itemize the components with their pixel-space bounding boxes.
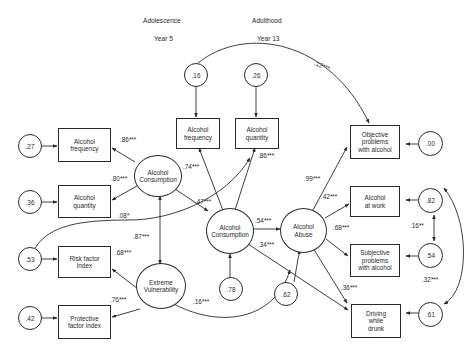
- box-label: Protective factor index: [68, 315, 101, 330]
- error-circle-abuse: .62: [274, 282, 298, 306]
- box-objective-problems: Objective problems with alcohol: [350, 125, 400, 159]
- coef-abuse-objective: .99***: [304, 175, 320, 182]
- latent-alcohol-consumption-adult: Alcohol Consumption: [206, 208, 254, 254]
- edge-abuse-driving: [313, 248, 347, 303]
- coef-work-subj-corr: .16**: [410, 222, 424, 229]
- edge-cons-freq: [112, 148, 135, 162]
- edge-work-driving-corr: [444, 188, 464, 304]
- latent-alcohol-abuse: Alcohol Abuse: [280, 208, 327, 253]
- box-alcohol-quantity-adult: Alcohol quantity: [235, 118, 279, 149]
- box-alcohol-frequency-adult: Alcohol frequency: [176, 118, 220, 149]
- box-alcohol-frequency-adol: Alcohol frequency: [58, 128, 111, 162]
- box-protective-factor-index: Protective factor index: [58, 305, 111, 339]
- coef-vuln-protective: .76***: [110, 296, 126, 303]
- box-label: Subjective problems with alcohol: [358, 249, 391, 272]
- edge-abuse-subjective: [326, 239, 348, 256]
- edge-adult-driving: [248, 244, 348, 310]
- coef-abuse-work: .42***: [321, 193, 337, 200]
- box-label: Driving while drunk: [366, 310, 386, 333]
- error-circle-risk: .53: [18, 247, 42, 271]
- coef-abuse-driving: .36***: [341, 284, 357, 291]
- edge-vuln-protective: [112, 309, 140, 317]
- header-year-13: Year 13: [257, 35, 280, 42]
- edge-adult-qty: [234, 148, 255, 213]
- coef-adult-driving: .34***: [258, 241, 274, 248]
- box-label: Alcohol quantity: [73, 194, 95, 209]
- coef-adult-qty: .86***: [258, 152, 274, 159]
- error-circle-freq-adult: .16: [184, 63, 208, 87]
- error-circle-driving: .61: [418, 302, 443, 327]
- coef-risk-adult-qty: .08*: [118, 212, 129, 219]
- latent-alcohol-consumption-adol: Alcohol Consumption: [134, 155, 182, 197]
- edge-cons-qty: [112, 186, 137, 200]
- coef-adult-freq: .74***: [183, 163, 199, 170]
- coef-work-driving-corr: .32***: [422, 276, 438, 283]
- header-year-5: Year 5: [154, 35, 173, 42]
- coef-cons-qty: .80***: [111, 175, 127, 182]
- edge-abuse-work: [325, 204, 349, 218]
- coef-abuse-subjective: .68***: [333, 224, 349, 231]
- coef-vuln-risk: .68***: [115, 249, 131, 256]
- box-risk-factor-index: Risk factor index: [58, 246, 111, 278]
- error-circle-qty-adol: .36: [18, 190, 42, 214]
- edge-vuln-risk: [112, 269, 138, 289]
- box-driving-while-drunk: Driving while drunk: [351, 304, 401, 338]
- box-label: Objective problems with alcohol: [358, 131, 391, 154]
- box-label: Alcohol frequency: [184, 126, 212, 141]
- box-label: Alcohol frequency: [70, 138, 98, 153]
- error-circle-protective: .42: [18, 306, 42, 330]
- box-label: Risk factor index: [69, 255, 99, 270]
- box-alcohol-at-work: Alcohol at work: [350, 186, 400, 217]
- box-alcohol-quantity-adol: Alcohol quantity: [58, 185, 111, 218]
- latent-label: Alcohol Abuse: [293, 223, 314, 238]
- error-circle-qty-adult: .26: [244, 63, 268, 87]
- latent-label: Alcohol Consumption: [211, 224, 249, 239]
- header-adolescence: Adolescence: [143, 17, 181, 24]
- coef-cons-adol-adult: .47***: [195, 198, 211, 205]
- coef-adult-abuse: .54***: [255, 217, 271, 224]
- latent-label: Extreme Vulnerability: [144, 279, 179, 294]
- coef-vuln-abuse: .16***: [193, 298, 209, 305]
- path-diagram: Adolescence Year 5 Adulthood Year 13 .27…: [0, 0, 469, 360]
- error-circle-subjective: .54: [418, 243, 443, 268]
- edge-freq-err-objective: [198, 43, 369, 123]
- coef-cons-freq: .86***: [120, 136, 136, 143]
- error-circle-work: .82: [418, 188, 443, 213]
- coef-cons-vuln-corr: .87***: [133, 233, 149, 240]
- header-adulthood: Adulthood: [252, 17, 282, 24]
- box-subjective-problems: Subjective problems with alcohol: [350, 244, 400, 277]
- error-circle-consumption-adult: .78: [219, 277, 243, 301]
- latent-extreme-vulnerability: Extreme Vulnerability: [136, 263, 186, 309]
- error-circle-freq-adol: .27: [18, 134, 42, 158]
- box-label: Alcohol at work: [365, 194, 386, 209]
- error-circle-objective: .00: [418, 131, 443, 156]
- latent-label: Alcohol Consumption: [139, 169, 177, 184]
- box-label: Alcohol quantity: [246, 126, 268, 141]
